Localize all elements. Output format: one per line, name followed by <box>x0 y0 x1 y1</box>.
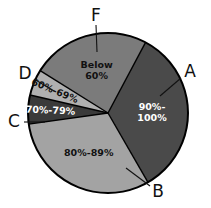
pie-chart-svg: 90%-100%80%-89%70%-79%60%-69%Below60% AB… <box>0 0 211 208</box>
callout-letter-b: B <box>152 181 164 201</box>
pie-slice-label-a: 90%-100% <box>137 101 167 123</box>
pie-slice-label-c: 70%-79% <box>26 103 76 116</box>
callout-letter-f: F <box>91 5 101 25</box>
callout-letter-a: A <box>184 61 196 81</box>
pie-slice-label-b: 80%-89% <box>64 146 114 157</box>
callout-letter-d: D <box>18 63 31 83</box>
pie-chart: 90%-100%80%-89%70%-79%60%-69%Below60% AB… <box>0 0 211 208</box>
callout-letter-c: C <box>8 111 20 131</box>
